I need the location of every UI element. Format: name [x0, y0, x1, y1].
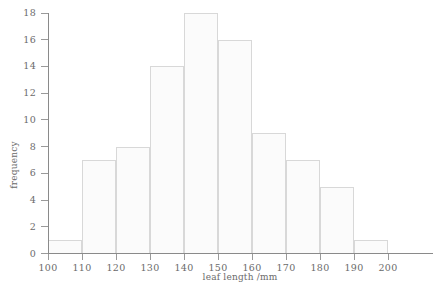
histogram-chart: 024681012141618 100110120130140150160170… [0, 0, 444, 289]
x-tick-label: 180 [310, 262, 329, 273]
histogram-bar [151, 67, 184, 254]
histogram-bar [49, 241, 82, 254]
y-tick-label: 4 [30, 194, 36, 205]
y-tick-label: 12 [23, 87, 36, 98]
x-tick-label: 170 [276, 262, 295, 273]
bars-group [49, 14, 388, 254]
x-tick-label: 100 [38, 262, 57, 273]
y-tick-label: 18 [23, 7, 36, 18]
y-tick-label: 10 [23, 114, 36, 125]
y-tick-label: 2 [30, 221, 36, 232]
y-ticks-group: 024681012141618 [23, 7, 48, 259]
y-tick-label: 6 [30, 167, 36, 178]
x-tick-label: 110 [72, 262, 91, 273]
histogram-bar [253, 134, 286, 254]
histogram-bar [321, 187, 354, 253]
histogram-bar [117, 147, 150, 253]
y-tick-label: 0 [30, 248, 36, 259]
x-tick-label: 200 [378, 262, 397, 273]
histogram-bar [355, 241, 388, 254]
histogram-bar [185, 14, 218, 254]
histogram-bar [287, 160, 320, 253]
y-axis-title: frequency [9, 141, 19, 189]
x-ticks-group: 100110120130140150160170180190200 [38, 254, 397, 273]
x-tick-label: 190 [344, 262, 363, 273]
histogram-bar [219, 40, 252, 253]
x-tick-label: 130 [140, 262, 159, 273]
y-tick-label: 16 [23, 34, 36, 45]
histogram-bar [83, 160, 116, 253]
x-tick-label: 140 [174, 262, 193, 273]
y-tick-label: 8 [30, 141, 36, 152]
x-axis-title: leaf length /mm [203, 272, 278, 282]
y-tick-label: 14 [23, 60, 36, 71]
chart-canvas: 024681012141618 100110120130140150160170… [0, 0, 444, 289]
x-tick-label: 120 [106, 262, 125, 273]
